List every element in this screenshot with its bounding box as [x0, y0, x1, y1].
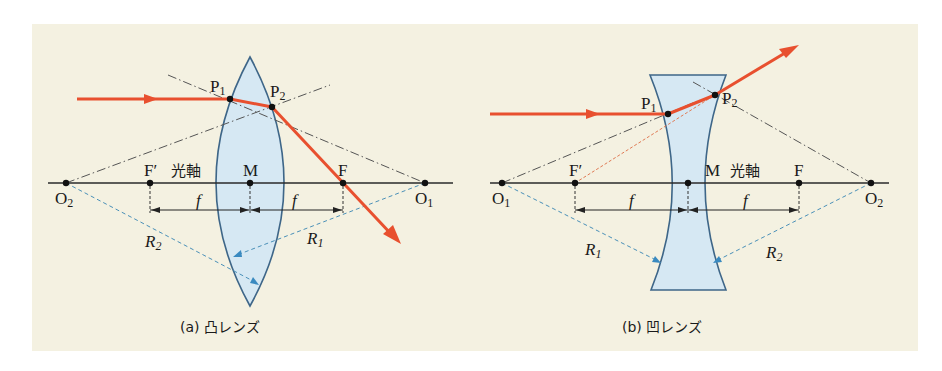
label-optical-axis: 光軸 [171, 162, 201, 180]
point-f [340, 180, 346, 186]
diagram-background [32, 24, 918, 351]
point-f-prime [572, 180, 578, 186]
point-f [796, 180, 802, 186]
caption-concave: (b) 凹レンズ [622, 319, 702, 335]
point-m [685, 180, 691, 186]
point-p1 [227, 96, 233, 102]
point-o2 [868, 180, 874, 186]
label-f-prime: F′ [569, 161, 582, 180]
point-p1 [665, 111, 671, 117]
point-p2 [269, 104, 275, 110]
point-o1 [499, 180, 505, 186]
point-p2 [712, 92, 718, 98]
label-m: M [705, 161, 720, 180]
label-m: M [243, 161, 258, 180]
label-f: F [338, 161, 347, 180]
lens-diagram: P1 P2 F′ 光軸 M F O2 O1 f f R2 R1 (a) 凸レンズ [0, 0, 942, 371]
point-o2 [63, 180, 69, 186]
point-f-prime [147, 180, 153, 186]
label-f-prime: F′ [144, 161, 157, 180]
point-o1 [422, 180, 428, 186]
label-f: F [794, 161, 803, 180]
caption-convex: (a) 凸レンズ [180, 319, 260, 335]
label-optical-axis: 光軸 [730, 162, 760, 180]
point-m [247, 180, 253, 186]
